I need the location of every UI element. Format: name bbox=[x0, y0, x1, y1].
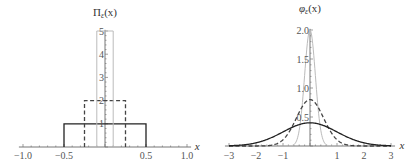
right-chart bbox=[225, 29, 395, 146]
x-tick-label: 3 bbox=[389, 150, 394, 161]
y-axis-label: Πε(x) bbox=[93, 6, 117, 20]
y-tick-label: 1.5 bbox=[297, 54, 310, 65]
y-tick-label: 1 bbox=[99, 118, 104, 129]
x-tick-label: 1.0 bbox=[181, 150, 194, 161]
x-axis-label: x bbox=[399, 139, 405, 151]
y-tick-label: 1.0 bbox=[297, 83, 310, 94]
y-tick-label: 5 bbox=[99, 26, 104, 37]
x-tick-label: −1.0 bbox=[14, 150, 32, 161]
x-tick-label: −0.5 bbox=[55, 150, 73, 161]
y-tick-label: 4 bbox=[99, 49, 104, 60]
chart-canvas: −1.0−0.50.51.012345Πε(x)x−3−2−11230.51.0… bbox=[0, 0, 417, 167]
x-tick-label: −3 bbox=[224, 150, 235, 161]
left-chart bbox=[19, 30, 191, 147]
y-tick-label: 2.0 bbox=[297, 25, 310, 36]
y-tick-label: 0.5 bbox=[297, 112, 310, 123]
x-tick-label: 2 bbox=[362, 150, 367, 161]
x-tick-label: 0.5 bbox=[140, 150, 153, 161]
y-tick-label: 2 bbox=[99, 95, 104, 106]
y-axis-label: φε(x) bbox=[299, 2, 321, 16]
x-axis-label: x bbox=[194, 140, 200, 152]
y-tick-label: 3 bbox=[99, 72, 104, 83]
x-tick-label: 1 bbox=[335, 150, 340, 161]
x-tick-label: −1 bbox=[278, 150, 289, 161]
x-tick-label: −2 bbox=[251, 150, 262, 161]
